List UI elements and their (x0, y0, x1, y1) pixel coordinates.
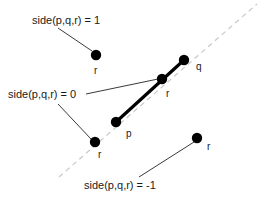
leader-line-side-negative (139, 142, 194, 177)
segment-pq (116, 60, 184, 122)
label-point-q: q (196, 61, 202, 72)
leader-line-side-zero-lower (58, 104, 91, 139)
supporting-line-pq-dashed (59, 4, 257, 177)
label-point-r-on-line: r (166, 88, 170, 99)
point-p (111, 117, 121, 127)
label-point-p: p (126, 128, 132, 139)
label-side-zero: side(p,q,r) = 0 (8, 88, 76, 100)
leader-line-side-positive (58, 28, 92, 51)
point-q (179, 55, 189, 65)
point-r-on-line (157, 74, 167, 84)
label-side-positive: side(p,q,r) = 1 (32, 14, 100, 26)
point-r-above (91, 50, 101, 60)
point-r-below (192, 133, 202, 143)
figure-canvas: side(p,q,r) = 1 side(p,q,r) = 0 side(p,q… (0, 0, 266, 198)
label-side-negative: side(p,q,r) = -1 (84, 179, 156, 191)
label-point-r-above: r (94, 65, 98, 76)
orientation-predicate-figure: side(p,q,r) = 1 side(p,q,r) = 0 side(p,q… (0, 0, 266, 198)
label-point-r-below: r (207, 141, 211, 152)
point-r-on-ray (90, 137, 100, 147)
label-point-r-on-ray: r (98, 149, 102, 160)
